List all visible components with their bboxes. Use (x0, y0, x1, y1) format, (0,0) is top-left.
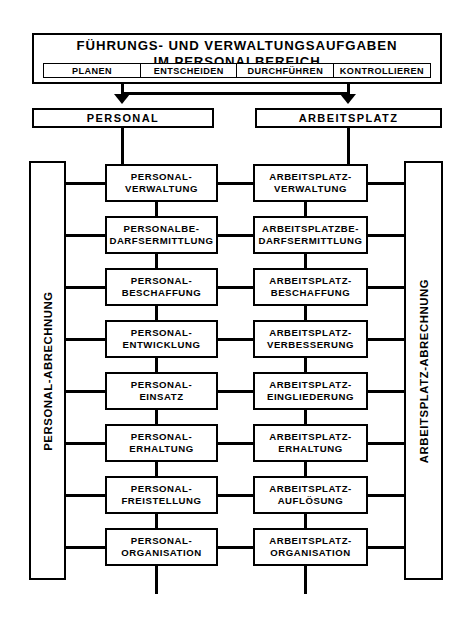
connector-box-to-sidebar-right-3 (366, 286, 406, 289)
task-box-left-4[interactable]: PERSONAL- ENTWICKLUNG (105, 320, 218, 358)
connector-left-to-right-row-1 (216, 182, 255, 185)
task-box-right-2[interactable]: ARBEITSPLATZBE- DARFSERMITTLUNG (253, 216, 368, 254)
sidebar-personal-abrechnung: PERSONAL-ABRECHNUNG (29, 161, 66, 580)
connector-box-to-sidebar-right-8 (366, 546, 406, 549)
task-box-left-5[interactable]: PERSONAL- EINSATZ (105, 372, 218, 410)
connector-left-to-right-row-3 (216, 286, 255, 289)
task-box-left-2[interactable]: PERSONALBE- DARFSERMITTLUNG (105, 216, 218, 254)
connector-sidebar-left-to-box-6 (64, 442, 107, 445)
connector-left-to-right-row-7 (216, 494, 255, 497)
task-box-left-6[interactable]: PERSONAL- ERHALTUNG (105, 424, 218, 462)
connector-left-to-right-row-2 (216, 234, 255, 237)
task-box-right-3[interactable]: ARBEITSPLATZ- BESCHAFFUNG (253, 268, 368, 306)
arrow-down-icon-right (340, 94, 356, 104)
phase-cell-entscheiden[interactable]: ENTSCHEIDEN (140, 63, 238, 78)
connector-left-to-right-row-5 (216, 390, 255, 393)
connector-left-to-right-row-8 (216, 546, 255, 549)
connector-left-to-right-row-6 (216, 442, 255, 445)
connector-sidebar-left-to-box-5 (64, 390, 107, 393)
connector-vertical-right-8 (304, 564, 307, 594)
connector-sidebar-left-to-box-7 (64, 494, 107, 497)
phase-cell-durchfuehren[interactable]: DURCHFÜHREN (236, 63, 334, 78)
connector-sidebar-left-to-box-1 (64, 182, 107, 185)
connector-box-to-sidebar-right-5 (366, 390, 406, 393)
task-box-right-7[interactable]: ARBEITSPLATZ- AUFLÖSUNG (253, 476, 368, 514)
task-box-left-8[interactable]: PERSONAL- ORGANISATION (105, 528, 218, 566)
header-box: FÜHRUNGS- UND VERWALTUNGSAUFGABEN IM PER… (32, 33, 442, 84)
phase-cell-kontrollieren[interactable]: KONTROLLIEREN (333, 63, 431, 78)
sidebar-arbeitsplatz-abrechnung-label: ARBEITSPLATZ-ABRECHNUNG (418, 278, 430, 462)
task-box-right-5[interactable]: ARBEITSPLATZ- EINGLIEDERUNG (253, 372, 368, 410)
task-box-left-7[interactable]: PERSONAL- FREISTELLUNG (105, 476, 218, 514)
diagram-canvas: FÜHRUNGS- UND VERWALTUNGSAUFGABEN IM PER… (0, 0, 468, 630)
sidebar-arbeitsplatz-abrechnung: ARBEITSPLATZ-ABRECHNUNG (404, 161, 443, 580)
arrow-down-icon-left (114, 94, 130, 104)
task-box-right-8[interactable]: ARBEITSPLATZ- ORGANISATION (253, 528, 368, 566)
task-box-right-4[interactable]: ARBEITSPLATZ- VERBESSERUNG (253, 320, 368, 358)
task-box-left-1[interactable]: PERSONAL- VERWALTUNG (105, 164, 218, 202)
connector-sidebar-left-to-box-4 (64, 338, 107, 341)
connector-box-to-sidebar-right-2 (366, 234, 406, 237)
connector-sidebar-left-to-box-3 (64, 286, 107, 289)
feeder-line-right (347, 128, 350, 164)
connector-sidebar-left-to-box-8 (64, 546, 107, 549)
feeder-line-left (121, 128, 124, 164)
task-box-right-1[interactable]: ARBEITSPLATZ- VERWALTUNG (253, 164, 368, 202)
sidebar-personal-abrechnung-label: PERSONAL-ABRECHNUNG (42, 291, 54, 451)
connector-box-to-sidebar-right-7 (366, 494, 406, 497)
branch-horizontal-line (122, 92, 349, 95)
connector-box-to-sidebar-right-4 (366, 338, 406, 341)
connector-sidebar-left-to-box-2 (64, 234, 107, 237)
phase-cell-planen[interactable]: PLANEN (43, 63, 141, 78)
connector-vertical-left-8 (155, 564, 158, 594)
task-box-right-6[interactable]: ARBEITSPLATZ- ERHALTUNG (253, 424, 368, 462)
connector-box-to-sidebar-right-1 (366, 182, 406, 185)
connector-box-to-sidebar-right-6 (366, 442, 406, 445)
column-heading-arbeitsplatz: ARBEITSPLATZ (255, 108, 442, 128)
task-box-left-3[interactable]: PERSONAL- BESCHAFFUNG (105, 268, 218, 306)
column-heading-personal: PERSONAL (32, 108, 214, 128)
connector-left-to-right-row-4 (216, 338, 255, 341)
phase-strip: PLANEN ENTSCHEIDEN DURCHFÜHREN KONTROLLI… (43, 63, 431, 78)
